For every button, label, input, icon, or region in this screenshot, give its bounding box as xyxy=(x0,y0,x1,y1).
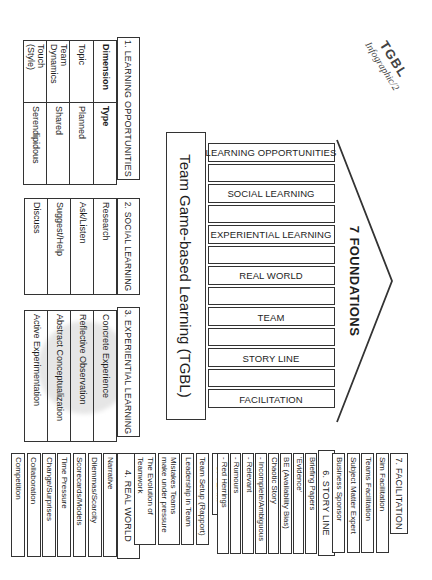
pillar-spacer xyxy=(208,287,335,306)
cell-dimension: Team Dynamics xyxy=(47,41,69,103)
table-row: Research xyxy=(94,199,116,294)
list-item: Leadership in Team xyxy=(182,453,195,545)
cell-type: Planned xyxy=(71,103,93,184)
table-row: Active Experimentation xyxy=(25,311,48,441)
pillar-team: TEAM xyxy=(208,307,335,326)
list-item: Teams Facilitation xyxy=(362,453,375,553)
list-item: - Relevant xyxy=(242,453,254,554)
list-item: Scorecards/Models xyxy=(73,453,87,557)
infographic-sheet: TGBL Infographic/2 7 FOUNDATIONS LEARNIN… xyxy=(0,0,432,580)
cell-type: Serendipidous xyxy=(24,103,46,184)
list-item: - Rumours xyxy=(230,453,242,554)
table-row: Ask/Listen xyxy=(71,199,94,294)
table-row: Team Dynamics Shared xyxy=(47,41,70,184)
col-header-type: Type xyxy=(94,103,116,184)
list-item: Reflective Observation xyxy=(71,311,93,441)
list-item: 'Evidence' xyxy=(293,453,305,554)
pillar-spacer xyxy=(208,328,335,347)
section-6-list: Briefing Papers 'Evidence' BE (Availabil… xyxy=(217,453,317,554)
cell-dimension: Touch (Style) xyxy=(24,41,46,103)
section-1-table: Dimension Type Topic Planned Team Dynami… xyxy=(23,40,117,185)
roof-chevron-line xyxy=(337,140,392,422)
section-7-header: 7. FACILITATION xyxy=(390,453,408,534)
pillar-spacer xyxy=(208,246,335,265)
list-item: Research xyxy=(94,199,116,294)
pillar-label: SOCIAL LEARNING xyxy=(228,188,315,199)
list-item: Briefing Papers xyxy=(305,453,317,554)
section-7-list: Sim Facilitation Teams Facilitation Subj… xyxy=(333,453,390,553)
list-item: Ask/Listen xyxy=(71,199,93,294)
col-header-dimension: Dimension xyxy=(94,41,116,103)
pillar-label: REAL WORLD xyxy=(240,270,303,281)
section-3-header: 3. EXPERIENTIAL LEARNING xyxy=(117,307,140,437)
table-row: Discuss xyxy=(25,199,48,294)
table-row: Concrete Experience xyxy=(94,311,116,441)
list-item: Time Pressure xyxy=(57,453,71,557)
list-item: BE (Availability Bias) xyxy=(280,453,292,554)
pillar-label: LEARNING OPPORTUNITIES xyxy=(206,147,337,158)
section-2-table: Research Ask/Listen Suggest/Help Discuss xyxy=(24,198,117,295)
list-item: - Incomplete/Ambiguous xyxy=(255,453,267,554)
list-item: Dilemmas/Scarcity xyxy=(88,453,102,557)
pillar-story-line: STORY LINE xyxy=(208,348,335,367)
section-3-table: Concrete Experience Reflective Observati… xyxy=(24,310,117,442)
figure-title-bar: Team Game-based Learning (TGBL) xyxy=(166,132,206,420)
pillar-label: STORY LINE xyxy=(243,352,300,363)
list-item: Team Setup (Rapport) xyxy=(196,453,209,545)
table-row: Reflective Observation xyxy=(71,311,94,441)
table-row: Touch (Style) Serendipidous xyxy=(24,41,47,184)
table-row: Topic Planned xyxy=(71,41,94,184)
list-item: Business Sponsor xyxy=(333,453,346,553)
list-item: Discuss xyxy=(25,199,47,294)
list-item: Active Experimentation xyxy=(25,311,47,441)
pillar-label: FACILITATION xyxy=(240,393,304,404)
section-1-header: 1. LEARNING OPPORTUNITIES xyxy=(117,37,140,180)
pillar-social-learning: SOCIAL LEARNING xyxy=(208,184,335,203)
pillar-label: TEAM xyxy=(258,311,285,322)
section-4-list: Narrative Dilemmas/Scarcity Scorecards/M… xyxy=(11,453,117,557)
list-item: Abstract Conceptualization xyxy=(48,311,70,441)
pillar-learning-opportunities: LEARNING OPPORTUNITIES xyxy=(208,143,335,162)
pillar-facilitation: FACILITATION xyxy=(208,389,335,408)
pillar-spacer xyxy=(208,164,335,183)
section-5-list: Team Setup (Rapport) Leadership in Team … xyxy=(135,453,210,545)
pillar-label: EXPERIENTIAL LEARNING xyxy=(211,229,332,240)
pillar-experiential-learning: EXPERIENTIAL LEARNING xyxy=(208,225,335,244)
pillar-real-world: REAL WORLD xyxy=(208,266,335,285)
list-item: Chaotic Story xyxy=(268,453,280,554)
list-item: Change/Surprises xyxy=(42,453,56,557)
section-2-header: 2. SOCIAL LEARNING xyxy=(117,198,140,295)
cell-dimension: Topic xyxy=(71,41,93,103)
list-item: Mistakes Teams make under pressure xyxy=(158,453,180,545)
pillar-spacer xyxy=(208,205,335,224)
list-item: Narrative xyxy=(103,453,117,557)
list-item: Collaboration xyxy=(27,453,41,557)
table-row: Suggest/Help xyxy=(48,199,71,294)
list-item: - Red Herrings xyxy=(217,453,229,554)
figure-title: Team Game-based Learning (TGBL) xyxy=(178,154,195,397)
table-row: Dimension Type xyxy=(94,41,116,184)
pillars-row: LEARNING OPPORTUNITIES SOCIAL LEARNING E… xyxy=(208,143,335,408)
list-item: Subject Matter Expert xyxy=(347,453,360,553)
list-item: The Evolution of Teamwork xyxy=(135,453,157,545)
infographic-page: TGBL Infographic/2 7 FOUNDATIONS LEARNIN… xyxy=(0,0,432,580)
list-item: Suggest/Help xyxy=(48,199,70,294)
cell-type: Shared xyxy=(47,103,69,184)
table-row: Abstract Conceptualization xyxy=(48,311,71,441)
pillar-spacer xyxy=(208,369,335,388)
list-item: Competition xyxy=(11,453,25,557)
list-item: Sim Facilitation xyxy=(376,453,389,553)
list-item: Concrete Experience xyxy=(94,311,116,441)
foundations-label: 7 FOUNDATIONS xyxy=(347,199,362,363)
